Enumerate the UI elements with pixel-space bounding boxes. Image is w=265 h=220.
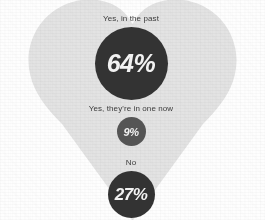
bubble-wrap-now: 9% bbox=[0, 117, 265, 146]
bubble-group-now: Yes, they're in one now 9% bbox=[0, 104, 265, 146]
bubble-label-past: Yes, in the past bbox=[0, 14, 265, 24]
bubble-wrap-no: 27% bbox=[0, 171, 265, 218]
bubble-label-no: No bbox=[0, 158, 265, 168]
bubble-chart-infographic: Yes, in the past 64% Yes, they're in one… bbox=[0, 0, 265, 220]
bubble-group-no: No 27% bbox=[0, 158, 265, 218]
bubble-value-now: 9% bbox=[117, 117, 146, 146]
bubble-value-no: 27% bbox=[108, 171, 155, 218]
bubble-group-past: Yes, in the past 64% bbox=[0, 14, 265, 100]
bubble-wrap-past: 64% bbox=[0, 27, 265, 100]
bubble-value-past: 64% bbox=[95, 27, 168, 100]
bubble-label-now: Yes, they're in one now bbox=[0, 104, 265, 114]
